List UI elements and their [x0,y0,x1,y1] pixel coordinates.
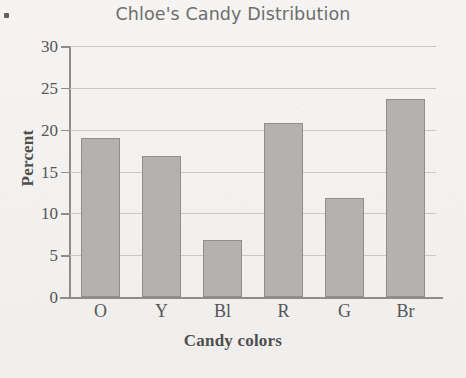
bar-O [81,138,120,297]
y-tick-label: 10 [24,205,58,222]
plot-area [70,46,436,297]
x-axis-line [60,297,443,299]
gridline [70,255,436,256]
y-tick-label: 0 [24,289,58,306]
x-axis-label: Candy colors [0,331,466,351]
x-tick-label: O [70,302,131,320]
chart-title: Chloe's Candy Distribution [0,4,466,24]
y-tick-mark [61,255,70,257]
x-tick-label: G [314,302,375,320]
y-tick-mark [61,88,70,90]
gridline [70,46,436,47]
y-tick-label: 20 [24,122,58,139]
gridline [70,213,436,214]
bar-G [325,198,364,297]
x-tick-label: R [253,302,314,320]
y-tick-mark [61,297,70,299]
gridline [70,172,436,173]
y-tick-label: 5 [24,247,58,264]
bar-R [264,123,303,297]
y-tick-label: 25 [24,80,58,97]
y-axis-tick-labels: 051015202530 [20,0,58,378]
y-tick-mark [61,213,70,215]
bar-Br [386,99,425,297]
y-tick-label: 30 [24,38,58,55]
x-tick-label: Bl [192,302,253,320]
y-tick-mark [61,172,70,174]
gridline [70,88,436,89]
bar-Y [142,156,181,297]
y-tick-mark [61,130,70,132]
gridline [70,130,436,131]
bar-Bl [203,240,242,297]
x-tick-label: Y [131,302,192,320]
y-tick-mark [61,46,70,48]
x-tick-label: Br [375,302,436,320]
y-tick-label: 15 [24,164,58,181]
